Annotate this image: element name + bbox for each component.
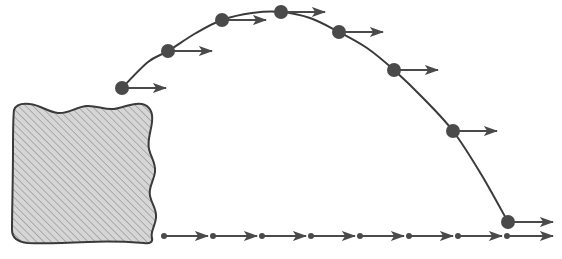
trajectory-point-marker [115, 81, 129, 95]
ground-vector-layer [161, 233, 553, 239]
ground-vector-origin-dot [504, 233, 510, 239]
ground-vector-origin-dot [455, 233, 461, 239]
trajectory-point-marker [215, 13, 229, 27]
trajectory-point-marker [274, 5, 288, 19]
trajectory-point-marker [501, 215, 515, 229]
ground-vector-origin-dot [259, 233, 265, 239]
hatched-cliff-block [12, 104, 156, 244]
ground-vector-origin-dot [308, 233, 314, 239]
trajectory-marker-layer [115, 5, 515, 229]
cliff-block-group [12, 104, 156, 244]
ground-vector-origin-dot [210, 233, 216, 239]
ground-vector-origin-dot [161, 233, 167, 239]
projectile-trajectory-curve [122, 12, 508, 222]
projectile-motion-figure [0, 0, 562, 259]
trajectory-point-marker [446, 124, 460, 138]
trajectory-point-marker [161, 44, 175, 58]
ground-vector-origin-dot [357, 233, 363, 239]
velocity-vector-layer [122, 12, 553, 222]
trajectory-point-marker [387, 63, 401, 77]
trajectory-group [122, 12, 508, 222]
figure-canvas [0, 0, 562, 259]
trajectory-point-marker [332, 25, 346, 39]
ground-vector-origin-dot [406, 233, 412, 239]
